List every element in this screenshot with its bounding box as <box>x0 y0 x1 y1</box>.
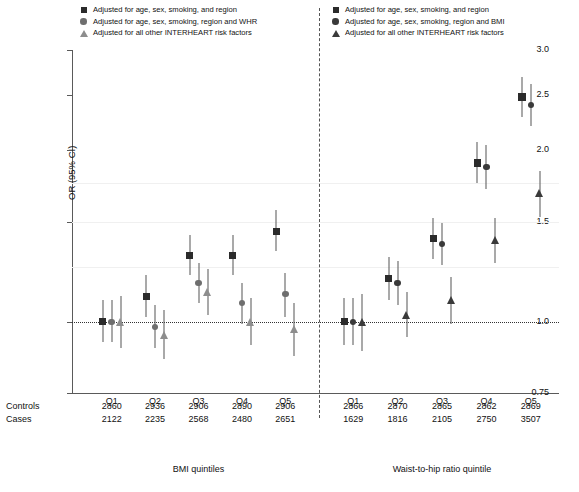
panel-title: Waist-to-hip ratio quintile <box>331 464 553 474</box>
reference-line-1 <box>72 322 559 323</box>
marker-circle <box>108 319 115 326</box>
legend-square-icon <box>81 7 87 13</box>
table-cell: 1816 <box>375 414 421 424</box>
marker-circle <box>195 280 202 287</box>
legend-marker <box>330 4 341 16</box>
marker-circle <box>282 291 289 298</box>
y-tick <box>67 50 72 51</box>
panel-title: BMI quintiles <box>90 464 307 474</box>
row-label-cases: Cases <box>6 414 32 424</box>
table-cell: 2936 <box>132 401 178 411</box>
x-axis <box>72 393 559 394</box>
legend-marker <box>78 27 89 39</box>
table-cell: 2906 <box>176 401 222 411</box>
table-cell: 2862 <box>463 401 509 411</box>
table-cell: 2890 <box>219 401 265 411</box>
table-cell: 2480 <box>219 414 265 424</box>
marker-circle <box>439 241 446 248</box>
table-cell: 2651 <box>262 414 308 424</box>
gridline <box>72 267 559 268</box>
marker-square <box>186 252 193 259</box>
marker-circle <box>350 319 357 326</box>
marker-square <box>474 159 482 167</box>
legend-label: Adjusted for age, sex, smoking, region a… <box>345 16 505 28</box>
table-cell: 2870 <box>375 401 421 411</box>
table-cell: 2906 <box>262 401 308 411</box>
legend-marker <box>330 27 341 39</box>
marker-circle <box>239 300 246 307</box>
table-cell: 2860 <box>89 401 135 411</box>
legend-right: Adjusted for age, sex, smoking, and regi… <box>330 4 505 39</box>
legend-triangle-icon <box>332 30 340 37</box>
marker-triangle <box>402 311 410 319</box>
table-cell: 2866 <box>330 401 376 411</box>
table-cell: 2869 <box>508 401 554 411</box>
marker-square <box>273 228 280 235</box>
forest-plot: OR (95% CI) 3.02.52.01.51.00.75 <box>72 50 559 393</box>
marker-square <box>430 235 437 242</box>
marker-triangle <box>358 318 366 326</box>
row-label-controls: Controls <box>6 401 40 411</box>
marker-triangle <box>160 331 168 339</box>
marker-square <box>229 252 236 259</box>
marker-circle <box>483 164 490 171</box>
table-cell: 2122 <box>89 414 135 424</box>
legend-marker <box>78 16 89 28</box>
legend-marker <box>78 4 89 16</box>
legend-circle-icon <box>332 18 339 25</box>
marker-triangle <box>290 325 298 333</box>
legend-label: Adjusted for all other INTERHEART risk f… <box>345 27 504 39</box>
panel-divider <box>319 8 320 418</box>
legend-circle-icon <box>80 18 87 25</box>
legend-item: Adjusted for all other INTERHEART risk f… <box>78 27 257 39</box>
legend-triangle-icon <box>80 30 88 37</box>
legend-label: Adjusted for age, sex, smoking, region a… <box>93 16 257 28</box>
legend-label: Adjusted for age, sex, smoking, and regi… <box>93 4 237 16</box>
table-cell: 2750 <box>463 414 509 424</box>
y-tick-label: 2.0 <box>515 144 549 154</box>
marker-circle <box>152 324 159 331</box>
marker-triangle <box>535 189 543 197</box>
legend-left: Adjusted for age, sex, smoking, and regi… <box>78 4 257 39</box>
marker-square <box>385 275 392 282</box>
legend-item: Adjusted for all other INTERHEART risk f… <box>330 27 505 39</box>
legend-item: Adjusted for age, sex, smoking, and regi… <box>330 4 505 16</box>
y-tick-label: 1.0 <box>515 316 549 326</box>
marker-square <box>518 93 526 101</box>
legend-item: Adjusted for age, sex, smoking, region a… <box>78 16 257 28</box>
marker-triangle <box>116 318 124 326</box>
legend-item: Adjusted for age, sex, smoking, and regi… <box>78 4 257 16</box>
y-tick <box>67 393 72 394</box>
legend-item: Adjusted for age, sex, smoking, region a… <box>330 16 505 28</box>
y-tick-label: 1.5 <box>515 216 549 226</box>
legend-square-icon <box>333 7 339 13</box>
table-cell: 2865 <box>419 401 465 411</box>
legend-label: Adjusted for all other INTERHEART risk f… <box>93 27 252 39</box>
legend-label: Adjusted for age, sex, smoking, and regi… <box>345 4 489 16</box>
marker-triangle <box>447 296 455 304</box>
marker-triangle <box>203 288 211 296</box>
legend-marker <box>330 16 341 28</box>
marker-circle <box>528 102 535 109</box>
y-tick <box>67 95 72 96</box>
marker-circle <box>394 280 401 287</box>
table-cell: 3507 <box>508 414 554 424</box>
y-axis-title: OR (95% CI) <box>66 146 77 200</box>
marker-square <box>99 318 106 325</box>
y-tick <box>67 150 72 151</box>
gridline <box>72 222 559 223</box>
table-cell: 2105 <box>419 414 465 424</box>
table-cell: 1629 <box>330 414 376 424</box>
marker-triangle <box>491 236 499 244</box>
marker-triangle <box>246 318 254 326</box>
table-cell: 2235 <box>132 414 178 424</box>
y-tick-label: 3.0 <box>515 44 549 54</box>
table-cell: 2568 <box>176 414 222 424</box>
marker-square <box>143 293 150 300</box>
marker-square <box>341 318 348 325</box>
